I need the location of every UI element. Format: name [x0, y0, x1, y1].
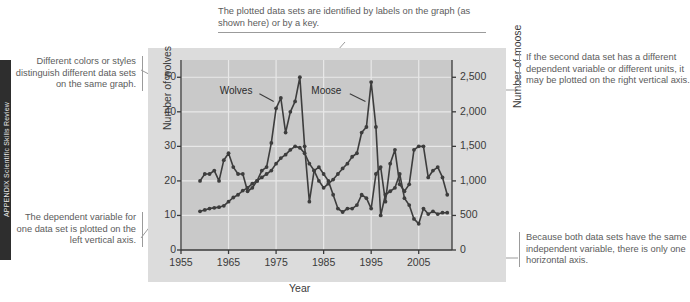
y-axis-title-left: Number of wolves: [161, 46, 173, 130]
x-axis-title: Year: [289, 282, 310, 294]
x-tick-4: 1995: [353, 256, 389, 268]
x-tick-0: 1955: [163, 256, 199, 268]
series-label-moose: Moose: [311, 85, 341, 96]
y-tick-right-1: 500: [460, 208, 500, 220]
y-tick-left-2: 20: [146, 174, 176, 186]
y-tick-left-3: 30: [146, 139, 176, 151]
y-tick-right-3: 1,500: [460, 139, 500, 151]
plot-wrapper: 01020304050 05001,0001,5002,0002,500 195…: [181, 60, 452, 250]
figure-page: APPENDIX Scientific Skills Review 010203…: [0, 0, 690, 302]
annotation-top: The plotted data sets are identified by …: [218, 6, 486, 33]
x-tick-2: 1975: [258, 256, 294, 268]
y-tick-right-2: 1,000: [460, 174, 500, 186]
series-label-wolves: Wolves: [220, 85, 253, 96]
y-tick-right-0: 0: [460, 243, 500, 255]
x-tick-5: 2005: [401, 256, 437, 268]
y-tick-right-5: 2,500: [460, 70, 500, 82]
annotation-right-upper: If the second data set has a different d…: [519, 52, 690, 87]
chart-panel: 01020304050 05001,0001,5002,0002,500 195…: [148, 48, 506, 282]
y-tick-right-4: 2,000: [460, 105, 500, 117]
x-tick-1: 1965: [211, 256, 247, 268]
x-tick-3: 1985: [306, 256, 342, 268]
y-tick-left-0: 0: [146, 243, 176, 255]
y-tick-left-1: 10: [146, 208, 176, 220]
annotation-left-upper: Different colors or styles distinguish d…: [8, 56, 143, 91]
annotation-left-lower: The dependent variable for one data set …: [8, 212, 143, 247]
annotation-right-lower: Because both data sets have the same ind…: [519, 232, 690, 267]
